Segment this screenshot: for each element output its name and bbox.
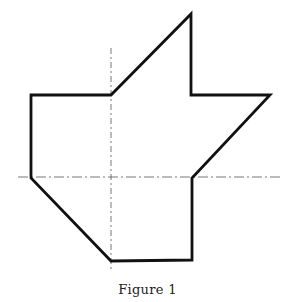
figure-caption: Figure 1 — [0, 282, 295, 297]
figure-diagram — [0, 0, 295, 302]
star-polygon-shape — [31, 14, 270, 261]
